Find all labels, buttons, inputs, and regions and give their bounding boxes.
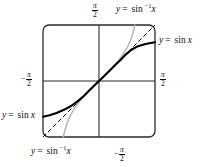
label-exponent: −1 xyxy=(145,2,152,9)
tick-label-right-pi-over-2: π 2 xyxy=(160,71,166,88)
figure-container: π 2 − π 2 π 2 − π 2 y=sin−1x y=sinx y=si… xyxy=(0,0,203,167)
fraction-denominator: 2 xyxy=(119,155,125,163)
label-equals: = xyxy=(122,4,127,14)
label-argument: x xyxy=(31,110,35,120)
tick-label-left-negative-pi-over-2: − π 2 xyxy=(21,71,32,88)
fraction-denominator: 2 xyxy=(92,11,98,19)
label-lhs: y xyxy=(2,110,6,120)
label-exponent: −1 xyxy=(60,144,67,151)
label-equals: = xyxy=(37,146,42,156)
minus-sign: − xyxy=(114,149,119,158)
minus-sign: − xyxy=(21,74,26,83)
tick-label-bottom-negative-pi-over-2: − π 2 xyxy=(114,146,125,163)
fraction-pi-over-2: π 2 xyxy=(92,2,98,19)
label-equals: = xyxy=(165,35,170,45)
label-argument: x xyxy=(188,35,192,45)
label-function: sin xyxy=(47,146,58,156)
fraction-denominator: 2 xyxy=(26,80,32,88)
label-argument: x xyxy=(152,4,156,14)
label-equals: = xyxy=(8,110,13,120)
curve-label-arcsine-top-right: y=sin−1x xyxy=(116,5,156,15)
label-function: sin xyxy=(18,110,29,120)
label-lhs: y xyxy=(116,4,120,14)
fraction-denominator: 2 xyxy=(160,80,166,88)
fraction-pi-over-2: π 2 xyxy=(160,71,166,88)
fraction-pi-over-2: π 2 xyxy=(119,146,125,163)
label-lhs: y xyxy=(159,35,163,45)
label-argument: x xyxy=(67,146,71,156)
fraction-pi-over-2: π 2 xyxy=(26,71,32,88)
label-function: sin xyxy=(175,35,186,45)
tick-label-top-pi-over-2: π 2 xyxy=(92,2,98,19)
curve-label-sine-left: y=sinx xyxy=(2,111,35,121)
curve-label-arcsine-bottom-left: y=sin−1x xyxy=(31,147,71,157)
label-function: sin xyxy=(132,4,143,14)
label-lhs: y xyxy=(31,146,35,156)
curve-label-sine-right: y=sinx xyxy=(159,36,192,46)
